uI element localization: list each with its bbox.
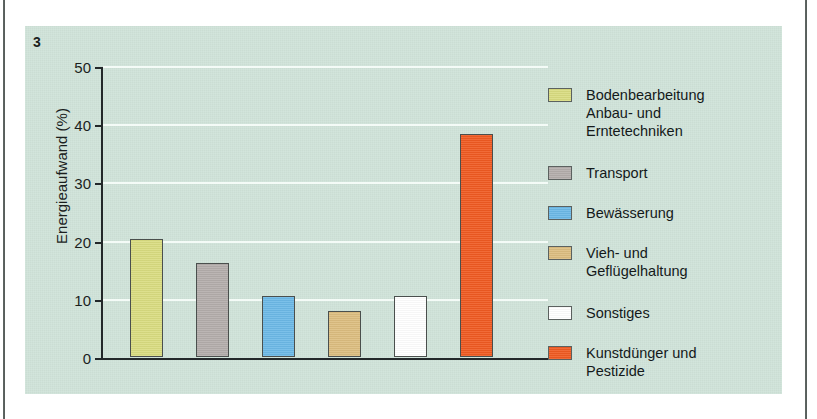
y-tick-mark [95,358,101,360]
bar-3 [262,296,295,357]
y-axis-line [101,67,103,359]
plot-area: 01020304050 [101,67,548,358]
bar-6 [460,134,493,357]
figure-number: 3 [33,34,41,50]
y-tick-mark [95,242,101,244]
legend-swatch-icon [548,346,572,360]
page-rule-right [805,0,807,419]
legend-swatch-icon [548,206,572,220]
legend-swatch-icon [548,166,572,180]
y-tick-mark [95,67,101,69]
y-tick-label: 40 [74,117,91,134]
bar-4 [328,311,361,357]
legend-label: Vieh- und Geflügelhaltung [586,244,688,280]
legend-swatch-icon [548,306,572,320]
legend-label: Bodenbearbeitung Anbau- und Erntetechnik… [586,86,705,140]
bar-2 [196,263,229,357]
y-axis-title: Energieaufwand (%) [53,108,70,244]
y-tick-label: 50 [74,59,91,76]
y-tick-label: 20 [74,233,91,250]
gridline [103,124,548,126]
gridline [103,66,548,68]
bar-1 [130,239,163,357]
legend-swatch-icon [548,88,572,102]
y-tick-label: 10 [74,291,91,308]
legend-label: Sonstiges [586,304,650,322]
legend-item-5[interactable]: Sonstiges [548,304,650,322]
y-tick-mark [95,183,101,185]
legend-swatch-icon [548,246,572,260]
bar-5 [394,296,427,357]
legend-label: Transport [586,164,648,182]
legend-item-1[interactable]: Bodenbearbeitung Anbau- und Erntetechnik… [548,86,705,140]
y-tick-label: 30 [74,175,91,192]
legend-label: Bewässerung [586,204,674,222]
page-rule-left [3,0,5,419]
legend-item-3[interactable]: Bewässerung [548,204,674,222]
legend-label: Kunstdünger und Pestizide [586,344,696,380]
y-tick-mark [95,125,101,127]
figure-panel: 3 Energieaufwand (%) 01020304050 Bodenbe… [25,26,782,394]
y-tick-mark [95,300,101,302]
legend-item-6[interactable]: Kunstdünger und Pestizide [548,344,696,380]
legend-item-2[interactable]: Transport [548,164,648,182]
x-axis-line [101,358,548,360]
legend-item-4[interactable]: Vieh- und Geflügelhaltung [548,244,688,280]
y-tick-label: 0 [83,350,91,367]
